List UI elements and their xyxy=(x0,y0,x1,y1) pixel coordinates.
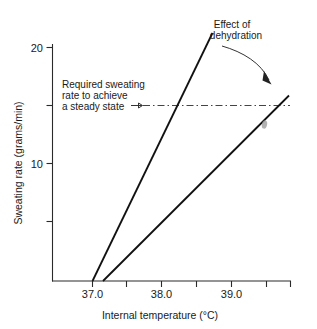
x-tick-group: 37.0 38.0 39.0 xyxy=(82,281,291,300)
x-tick-label-39: 39.0 xyxy=(221,288,242,300)
y-tick-group: 20 10 xyxy=(31,42,53,222)
data-series-group xyxy=(93,33,290,281)
x-axis-title: Internal temperature (°C) xyxy=(102,309,218,321)
dehydration-text-line-1: Effect of xyxy=(214,19,251,30)
annotation-dehydration: Effect of dehydration xyxy=(210,19,272,85)
y-tick-label-10: 10 xyxy=(31,158,43,170)
sweating-rate-chart: 20 10 37.0 38.0 39.0 Internal temperatur… xyxy=(0,0,317,329)
steady-state-arrow-icon xyxy=(131,103,143,108)
y-tick-label-20: 20 xyxy=(31,42,43,54)
dehydration-arrowhead-icon xyxy=(263,71,272,85)
steady-state-text-line-2: rate to achieve xyxy=(62,90,128,101)
series-line-dehydrated xyxy=(103,96,289,282)
series-line-euhydrated xyxy=(93,33,213,281)
y-axis-title: Sweating rate (grams/min) xyxy=(12,101,24,224)
chart-canvas: 20 10 37.0 38.0 39.0 Internal temperatur… xyxy=(0,0,317,329)
steady-state-reference-line xyxy=(131,103,290,108)
annotation-steady-state: Required sweating rate to achieve a stea… xyxy=(62,79,145,112)
steady-state-text-line-3: a steady state xyxy=(62,101,125,112)
steady-state-text-line-1: Required sweating xyxy=(62,79,145,90)
dehydration-curved-arrow xyxy=(222,46,269,80)
x-tick-label-37: 37.0 xyxy=(82,288,103,300)
x-tick-label-38: 38.0 xyxy=(151,288,172,300)
dehydration-text-line-2: dehydration xyxy=(210,30,262,41)
